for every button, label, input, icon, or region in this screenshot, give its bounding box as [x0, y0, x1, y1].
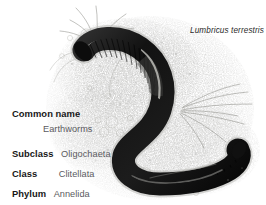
- taxonomy-label-class: Class: [12, 168, 37, 179]
- taxonomy-label-common-name: Common name: [12, 106, 142, 121]
- taxonomy-label-subclass: Subclass: [12, 148, 54, 159]
- taxonomy-label-phylum: Phylum: [12, 188, 46, 199]
- taxonomy-list: Common name Earthworms Subclass Oligocha…: [12, 106, 142, 202]
- scientific-name-label: Lumbricus terrestris: [190, 26, 262, 35]
- taxonomy-row-class: Class Clitellata: [12, 162, 142, 182]
- taxonomy-value-common-name: Earthworms: [12, 121, 142, 137]
- taxonomy-value-class: Clitellata: [42, 169, 95, 179]
- taxonomy-value-subclass: Oligochaeta: [58, 149, 111, 159]
- taxonomy-value-phylum: Annelida: [51, 189, 90, 199]
- taxonomy-row-phylum: Phylum Annelida: [12, 182, 142, 202]
- taxonomy-row-common-name: Common name Earthworms: [12, 106, 142, 142]
- species-info-card: Lumbricus terrestris Common name Earthwo…: [0, 0, 266, 205]
- taxonomy-row-subclass: Subclass Oligochaeta: [12, 142, 142, 162]
